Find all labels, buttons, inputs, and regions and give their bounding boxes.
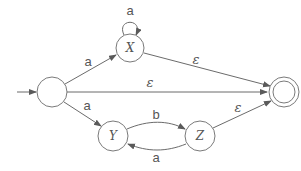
edge-z-final bbox=[213, 101, 271, 128]
nfa-diagram: a a ε ε a b a ε X Y Z bbox=[0, 0, 301, 171]
edge-y-z bbox=[127, 122, 185, 129]
edge-x-final bbox=[144, 53, 270, 86]
edge-x-final-label: ε bbox=[193, 52, 200, 67]
edge-start-x-label: a bbox=[84, 54, 92, 69]
edge-y-z-label: b bbox=[152, 107, 159, 122]
state-start bbox=[37, 77, 67, 107]
edge-z-y-label: a bbox=[152, 150, 160, 165]
edge-x-loop bbox=[123, 22, 138, 35]
edge-z-final-label: ε bbox=[235, 100, 242, 115]
edge-start-final-label: ε bbox=[147, 75, 154, 90]
state-z-label: Z bbox=[195, 129, 205, 143]
state-y-label: Y bbox=[109, 129, 118, 143]
edge-start-y-label: a bbox=[83, 98, 91, 113]
state-x-label: X bbox=[125, 41, 135, 55]
state-final-accepting bbox=[269, 77, 299, 107]
edge-x-loop-label: a bbox=[126, 3, 134, 18]
